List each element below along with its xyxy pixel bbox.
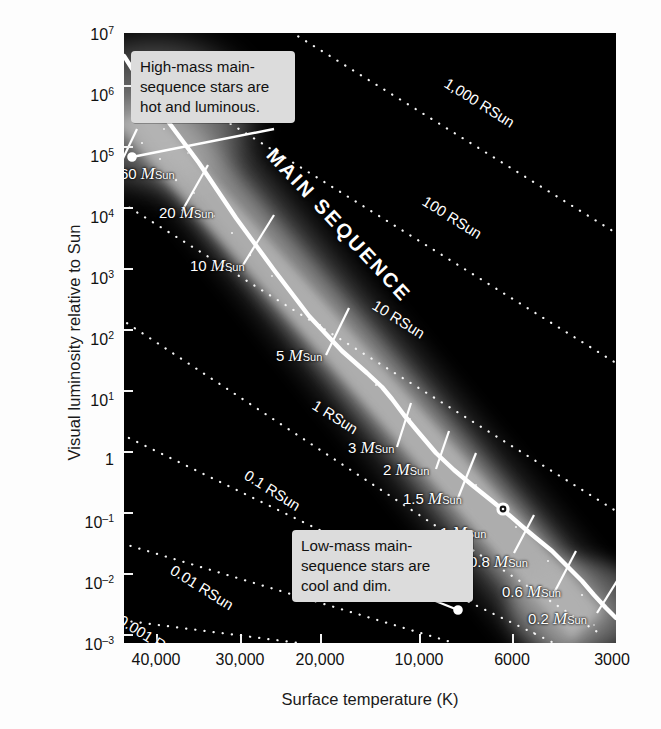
- x-tick-mark: [320, 634, 322, 643]
- mass-label-0.8: 0.8 MSun: [469, 552, 528, 572]
- low-mass-callout: Low-mass main- sequence stars are cool a…: [292, 530, 473, 602]
- high-mass-callout: High-mass main- sequence stars are hot a…: [131, 51, 295, 123]
- x-tick-mark: [240, 634, 242, 643]
- x-tick-label: 40,000: [132, 651, 181, 669]
- y-tick-label: 102: [28, 329, 114, 349]
- y-tick-mark: [124, 573, 133, 575]
- mass-label-60: 60 MSun: [124, 164, 175, 184]
- sun-marker: [496, 502, 509, 515]
- x-tick-label-group: 40,000 30,000 20,000 10,000 6000 3000: [0, 651, 661, 681]
- mass-label-10: 10 MSun: [190, 256, 245, 276]
- x-axis-label: Surface temperature (K): [124, 690, 616, 709]
- mass-label-0.6: 0.6 MSun: [502, 582, 561, 602]
- mass-label-2: 2 MSun: [383, 460, 429, 480]
- y-tick-label-group: 107 106 105 104 103 102 101 1 10–1 10–2 …: [28, 0, 114, 729]
- y-tick-mark: [124, 329, 133, 331]
- y-tick-label: 1: [28, 451, 114, 469]
- y-tick-label: 106: [28, 85, 114, 105]
- y-tick-mark: [124, 207, 133, 209]
- y-tick-label: 103: [28, 268, 114, 288]
- y-tick-mark: [124, 451, 133, 453]
- hr-diagram-figure: Visual luminosity relative to Sun 107 10…: [0, 0, 661, 729]
- y-tick-mark: [124, 146, 133, 148]
- y-tick-label: 105: [28, 146, 114, 166]
- x-tick-mark: [512, 634, 514, 643]
- x-tick-label: 10,000: [395, 651, 444, 669]
- x-tick-label: 30,000: [216, 651, 265, 669]
- y-tick-label: 10–1: [28, 512, 114, 532]
- y-tick-label: 104: [28, 207, 114, 227]
- x-tick-label: 6000: [494, 651, 530, 669]
- y-tick-label: 101: [28, 390, 114, 410]
- x-tick-mark: [419, 634, 421, 643]
- y-tick-mark: [124, 512, 133, 514]
- y-tick-mark: [124, 268, 133, 270]
- mass-label-3: 3 MSun: [348, 438, 394, 458]
- y-tick-label: 10–2: [28, 573, 114, 593]
- y-tick-mark: [124, 390, 133, 392]
- y-tick-label: 107: [28, 24, 114, 44]
- mass-label-0.2: 0.2 MSun: [528, 609, 587, 629]
- x-tick-label: 20,000: [296, 651, 345, 669]
- mass-label-20: 20 MSun: [159, 203, 214, 223]
- mass-label-5: 5 MSun: [276, 346, 322, 366]
- x-tick-label: 3000: [594, 651, 630, 669]
- mass-label-1.5: 1.5 MSun: [403, 489, 462, 509]
